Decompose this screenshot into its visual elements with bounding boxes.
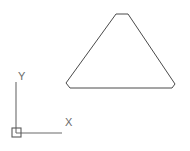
cad-drawing-canvas[interactable]: X Y <box>0 0 190 151</box>
cad-viewport[interactable]: X Y <box>0 0 190 151</box>
chamfered-triangle-shape[interactable] <box>66 14 175 88</box>
y-axis-label: Y <box>18 70 26 82</box>
x-axis-label: X <box>65 116 73 128</box>
